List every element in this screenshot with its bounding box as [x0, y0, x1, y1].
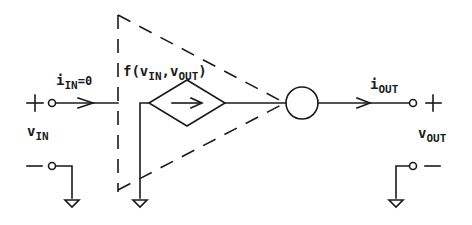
output-minus-terminal [410, 163, 417, 170]
label-subscript: IN [64, 79, 77, 92]
label-subscript: IN [35, 130, 48, 143]
circuit-schematic [0, 0, 472, 225]
label-suffix: =0 [78, 74, 92, 88]
ground-icon [133, 200, 147, 207]
output-circle-icon [286, 87, 318, 119]
label-suffix: ) [198, 63, 206, 79]
label-subscript: OUT [378, 83, 398, 96]
input-minus-terminal [49, 163, 56, 170]
input-plus-terminal [49, 100, 56, 107]
output-plus-terminal [410, 100, 417, 107]
polarity-signs [27, 95, 441, 166]
label-prefix: f(v [123, 63, 148, 79]
output-port [318, 98, 417, 207]
label-subscript-2: OUT [178, 70, 198, 83]
dependent-source-label: f(vIN,vOUT) [123, 64, 207, 78]
input-current-label: iIN=0 [56, 73, 92, 87]
circuit-diagram: iIN=0 f(vIN,vOUT) iOUT vIN vOUT [0, 0, 472, 225]
triangle-bottom-edge [118, 103, 285, 190]
triangle-top-edge [118, 15, 285, 103]
label-subscript-1: IN [148, 70, 161, 83]
input-port [49, 98, 119, 207]
output-current-label: iOUT [370, 77, 398, 91]
dependent-source [133, 80, 286, 207]
ground-icon [65, 200, 79, 207]
label-subscript: OUT [426, 132, 446, 145]
output-ground-wire [396, 166, 409, 198]
ground-icon [389, 200, 403, 207]
output-voltage-label: vOUT [418, 126, 446, 140]
source-ground-wire [140, 103, 149, 198]
input-ground-wire [56, 166, 72, 198]
input-voltage-label: vIN [27, 124, 49, 138]
label-mid: ,v [162, 63, 179, 79]
